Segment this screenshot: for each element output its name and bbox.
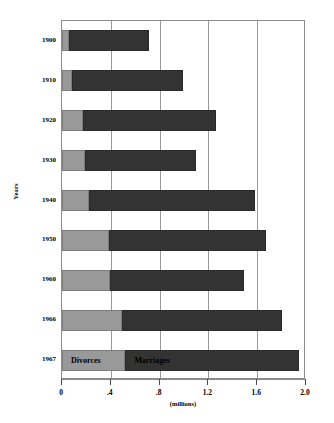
x-axis-tick-label: 1.6: [236, 388, 276, 397]
x-axis-tick-mark: [305, 379, 306, 385]
y-axis-tick-label: 1910: [11, 76, 61, 84]
y-axis-tick-label: 1967: [11, 355, 61, 363]
bar-segment-marriages: [109, 230, 266, 251]
bar-segment-divorces: [62, 310, 122, 331]
x-axis-title: (millions): [61, 400, 305, 407]
bar-segment-marriages: [85, 150, 196, 171]
bar-row: [62, 70, 306, 91]
x-axis-tick-label: .4: [90, 388, 130, 397]
x-axis-tick-mark: [110, 379, 111, 385]
bar-segment-marriages: [83, 110, 216, 131]
bar-segment-marriages: Marriages: [125, 350, 298, 371]
y-axis-tick-label: 1900: [11, 36, 61, 44]
bar-segment-divorces: [62, 70, 72, 91]
y-axis-tick-labels: 190019101920193019401950196019661967: [0, 20, 61, 379]
y-axis-tick-label: 1940: [11, 196, 61, 204]
bar-segment-divorces: [62, 230, 109, 251]
legend-label-divorces: Divorces: [71, 356, 101, 365]
bar-segment-divorces: [62, 150, 85, 171]
bar-row: [62, 230, 306, 251]
bar-segment-divorces: [62, 110, 83, 131]
bar-row: [62, 270, 306, 291]
bar-segment-divorces: Divorces: [62, 350, 125, 371]
bar-segment-marriages: [72, 70, 183, 91]
bar-row: [62, 30, 306, 51]
bar-row: [62, 150, 306, 171]
x-axis-tick-label: 1.2: [187, 388, 227, 397]
y-axis-tick-label: 1950: [11, 235, 61, 243]
bar-segment-marriages: [89, 190, 255, 211]
x-axis-tick-label: 0: [41, 388, 81, 397]
y-axis-tick-label: 1920: [11, 116, 61, 124]
y-axis-tick-label: 1960: [11, 275, 61, 283]
bar-segment-marriages: [110, 270, 244, 291]
x-axis-tick-mark: [207, 379, 208, 385]
bar-row: [62, 110, 306, 131]
legend-label-marriages: Marriages: [134, 356, 170, 365]
x-axis-tick-label: .8: [139, 388, 179, 397]
bar-segment-marriages: [122, 310, 282, 331]
plot-area: DivorcesMarriages: [61, 20, 305, 379]
bar-segment-marriages: [69, 30, 149, 51]
bar-row: [62, 310, 306, 331]
bar-row: [62, 190, 306, 211]
bar-segment-divorces: [62, 190, 89, 211]
x-axis-tick-label: 2.0: [285, 388, 325, 397]
x-axis-tick-mark: [61, 379, 62, 385]
y-axis-tick-label: 1930: [11, 156, 61, 164]
bar-row: DivorcesMarriages: [62, 350, 306, 371]
x-axis-tick-mark: [159, 379, 160, 385]
y-axis-tick-label: 1966: [11, 315, 61, 323]
x-axis: 0.4.81.21.62.0 (millions): [61, 379, 305, 423]
divorces-marriages-bar-chart: Years 1900191019201930194019501960196619…: [0, 0, 334, 423]
bar-segment-divorces: [62, 270, 110, 291]
x-axis-tick-mark: [256, 379, 257, 385]
bar-segment-divorces: [62, 30, 69, 51]
x-axis-line: [61, 379, 305, 380]
